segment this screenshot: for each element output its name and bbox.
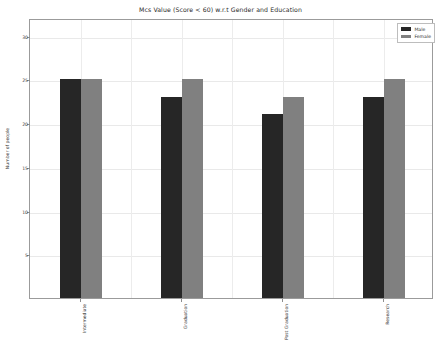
x-tick-label: Post Graduation <box>284 304 289 340</box>
bar-female-post-graduation <box>283 97 304 298</box>
x-tick-mark <box>181 299 182 302</box>
bar-male-research <box>363 97 384 298</box>
legend-item-female: Female <box>401 34 431 40</box>
x-tick-mark <box>80 299 81 302</box>
legend-swatch-male-icon <box>401 27 411 31</box>
x-tick-label: Intermediate <box>82 304 87 333</box>
y-tick-label: 30 <box>6 34 28 39</box>
legend-item-male: Male <box>401 26 431 32</box>
x-tick-mark <box>282 299 283 302</box>
bar-female-research <box>384 79 405 298</box>
x-tick-label: Graduation <box>183 304 188 329</box>
y-tick-label: 25 <box>6 78 28 83</box>
x-tick-label: Research <box>385 304 390 325</box>
chart-title: Mcs Value (Score < 60) w.r.t Gender and … <box>0 6 441 13</box>
legend: Male Female <box>397 23 435 43</box>
x-tick-mark <box>383 299 384 302</box>
bar-female-intermediate <box>81 79 102 298</box>
bar-male-graduation <box>161 97 182 298</box>
legend-label-female: Female <box>414 34 431 39</box>
bar-male-intermediate <box>60 79 81 298</box>
legend-label-male: Male <box>414 27 425 32</box>
bar-series-group <box>30 20 432 298</box>
bar-male-post-graduation <box>262 114 283 298</box>
y-tick-label: 20 <box>6 122 28 127</box>
y-tick-label: 5 <box>6 253 28 258</box>
plot-area <box>29 19 433 299</box>
legend-swatch-female-icon <box>401 35 411 39</box>
y-tick-label: 15 <box>6 165 28 170</box>
bar-female-graduation <box>182 79 203 298</box>
y-tick-label: 10 <box>6 209 28 214</box>
